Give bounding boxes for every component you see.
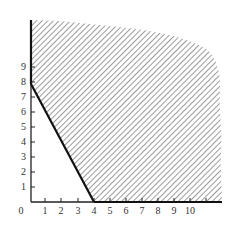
y-tick-label: 5 (21, 121, 26, 132)
y-tick-label: 8 (21, 76, 26, 87)
x-tick-label: 9 (172, 205, 177, 216)
x-tick-label: 6 (124, 205, 129, 216)
feasible-region (31, 20, 222, 202)
x-tick-label: 5 (108, 205, 113, 216)
x-tick-label: 1 (43, 205, 48, 216)
x-tick-labels: 1 2 3 4 5 6 7 8 9 10 (43, 205, 196, 216)
x-tick-label: 2 (59, 205, 64, 216)
x-tick-label: 8 (156, 205, 161, 216)
x-tick-label: 10 (185, 205, 195, 216)
x-tick-label: 7 (140, 205, 145, 216)
y-tick-labels: 1 2 3 4 5 6 7 8 9 (21, 61, 26, 192)
x-tick-label: 4 (92, 205, 97, 216)
y-tick-label: 9 (21, 61, 26, 72)
origin-label: 0 (19, 205, 24, 216)
y-tick-label: 3 (21, 151, 26, 162)
x-tick-label: 3 (76, 205, 81, 216)
y-tick-label: 7 (21, 91, 26, 102)
y-tick-label: 6 (21, 106, 26, 117)
feasible-region-chart: 1 2 3 4 5 6 7 8 9 0 1 2 3 4 5 6 7 8 9 10 (0, 0, 237, 226)
y-tick-label: 1 (21, 181, 26, 192)
y-tick-label: 2 (21, 166, 26, 177)
y-tick-label: 4 (21, 136, 26, 147)
